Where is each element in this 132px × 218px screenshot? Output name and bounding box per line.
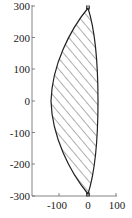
y-tick-label: 200 <box>14 32 31 44</box>
y-tick-label: 100 <box>14 63 31 75</box>
y-tick-label: -200 <box>10 158 31 170</box>
y-tick-labels: 300 200 100 0 -100 -200 -300 <box>10 0 31 202</box>
y-tick-label: 300 <box>14 0 31 12</box>
x-tick-label: 100 <box>109 199 126 211</box>
y-tick-label: -300 <box>10 190 31 202</box>
chart-canvas: 300 200 100 0 -100 -200 -300 -100 0 100 <box>0 0 132 218</box>
x-tick-label: 0 <box>85 199 91 211</box>
x-tick-labels: -100 0 100 <box>47 199 126 211</box>
hatched-lens-region <box>51 6 98 196</box>
y-tick-label: -100 <box>10 127 31 139</box>
y-tick-label: 0 <box>25 95 31 107</box>
x-tick-label: -100 <box>47 199 68 211</box>
